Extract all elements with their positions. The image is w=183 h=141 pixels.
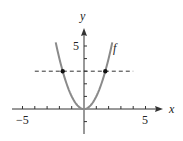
- curve-label-f: f: [113, 41, 118, 55]
- plot-canvas: y x f −5 5 5: [0, 0, 183, 141]
- x-axis-arrow-icon: [155, 106, 163, 112]
- intersection-point: [103, 69, 107, 73]
- y-axis-label: y: [79, 9, 86, 23]
- intersection-point: [60, 69, 64, 73]
- x-tick-label-neg5: −5: [16, 113, 29, 127]
- y-axis-arrow-icon: [81, 28, 87, 36]
- parabola-graph: y x f −5 5 5: [0, 0, 183, 141]
- axes: [12, 28, 163, 134]
- y-tick-label-5: 5: [73, 39, 79, 53]
- x-tick-label-5: 5: [142, 113, 148, 127]
- x-axis-label: x: [168, 102, 175, 116]
